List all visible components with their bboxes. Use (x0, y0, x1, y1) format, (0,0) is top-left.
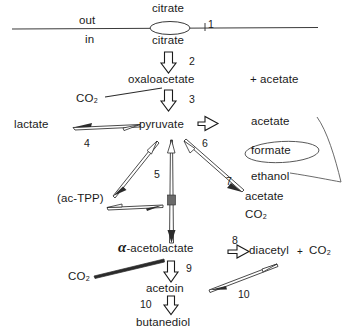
acetolactate-text: -acetolactate (126, 242, 193, 254)
arrow-pyruvate-actpp-diagonal (113, 141, 159, 198)
step-label-5: 5 (154, 168, 160, 180)
citrate-transporter-oval (150, 22, 190, 35)
metabolite-acetoin: acetoin (146, 282, 184, 295)
products-bracket (290, 117, 341, 182)
metabolite-butanediol: butanediol (136, 316, 190, 329)
metabolite-pyruvate: pyruvate (139, 118, 184, 131)
arrow-step-3-block (105, 88, 176, 111)
metabolite-co2-diacetyl: CO₂ (309, 244, 331, 257)
co2-step3-tieline (105, 88, 162, 97)
co2-step9-tieline (94, 259, 165, 279)
metabolite-acetate-step7: acetate (245, 190, 283, 203)
arrow-step-9-block (94, 259, 178, 282)
metabolite-acetate-top: + acetate (250, 73, 299, 86)
metabolite-alpha-acetolactate: α-acetolactate (118, 241, 194, 255)
step-label-10-left: 10 (140, 298, 152, 310)
arrow-step-10-block (164, 296, 178, 315)
arrow-step-7-diagonal (184, 139, 244, 192)
pathway-diagram: citrate out in citrate 1 2 oxaloacetate … (0, 0, 343, 335)
diacetyl-plus-sign: + (297, 246, 303, 257)
metabolite-oxaloacetate: oxaloacetate (128, 73, 194, 86)
step-label-10-right: 10 (238, 288, 250, 300)
metabolite-formate: formate (251, 144, 291, 157)
step-label-4: 4 (84, 137, 90, 149)
metabolite-acetate-right: acetate (251, 115, 289, 128)
step-label-3: 3 (189, 93, 195, 105)
step-label-8: 8 (232, 234, 238, 246)
step-label-1: 1 (208, 18, 214, 30)
step-label-2: 2 (189, 55, 195, 67)
step-label-6: 6 (202, 137, 208, 149)
metabolite-diacetyl: diacetyl (249, 244, 289, 257)
membrane-in-label: in (85, 33, 94, 46)
membrane-out-label: out (79, 14, 95, 27)
metabolite-citrate-out: citrate (152, 2, 184, 15)
metabolite-ac-tpp: (ac-TPP) (57, 192, 104, 205)
metabolite-co2-step7: CO₂ (245, 208, 267, 221)
metabolite-co2-step9: CO₂ (68, 270, 90, 283)
metabolite-lactate: lactate (14, 118, 49, 131)
arrow-step-4-reversible (73, 123, 140, 131)
arrow-step-8-block (228, 245, 249, 258)
step-label-7: 7 (226, 175, 232, 187)
arrow-step-6-block (198, 117, 218, 131)
metabolite-co2-step3: CO₂ (76, 92, 98, 105)
metabolite-citrate-in: citrate (152, 34, 184, 47)
arrow-step-2-block (161, 52, 176, 73)
arrow-step-5-vertical (168, 140, 176, 243)
step-label-9: 9 (186, 262, 192, 274)
arrow-actpp-reversible (107, 204, 163, 211)
metabolite-ethanol: ethanol (251, 170, 289, 183)
